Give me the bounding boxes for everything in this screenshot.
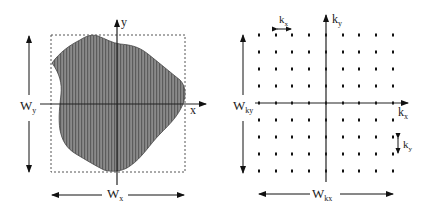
sample-point	[291, 51, 293, 54]
sample-point	[342, 34, 344, 37]
sample-point	[291, 153, 293, 156]
sample-point	[275, 85, 277, 88]
sample-point	[375, 170, 377, 173]
figure: y x Wy Wx ky kx kx ky Wky	[0, 0, 430, 211]
sample-point	[375, 68, 377, 71]
sample-point	[358, 119, 360, 122]
sample-point	[275, 136, 277, 139]
sample-point	[275, 68, 277, 71]
sample-point	[392, 51, 394, 54]
wy-label: Wy	[20, 98, 36, 115]
sample-point	[358, 68, 360, 71]
sample-point	[392, 85, 394, 88]
sample-point	[258, 170, 260, 173]
sample-point	[358, 51, 360, 54]
delta-kx-label: kx	[279, 13, 289, 28]
sample-point	[258, 119, 260, 122]
sample-point	[258, 136, 260, 139]
sample-point	[342, 51, 344, 54]
sample-point	[291, 136, 293, 139]
sample-point	[358, 170, 360, 173]
sample-point	[308, 136, 310, 139]
ky-axis-label: ky	[332, 12, 342, 28]
sample-point	[392, 34, 394, 37]
sample-point	[342, 119, 344, 122]
sample-point	[275, 119, 277, 122]
sample-point	[342, 68, 344, 71]
sample-point	[392, 68, 394, 71]
sample-point	[375, 85, 377, 88]
sample-point	[291, 34, 293, 37]
sample-point	[375, 136, 377, 139]
sample-point	[291, 85, 293, 88]
sample-point	[275, 51, 277, 54]
sample-point	[375, 119, 377, 122]
sample-point	[358, 34, 360, 37]
sample-point	[342, 85, 344, 88]
sample-point	[258, 51, 260, 54]
wx-label: Wx	[107, 186, 123, 203]
sample-point	[392, 170, 394, 173]
sample-point	[358, 136, 360, 139]
sample-point	[358, 153, 360, 156]
sample-point	[291, 119, 293, 122]
sample-point	[342, 136, 344, 139]
sample-point	[375, 153, 377, 156]
sample-point	[258, 34, 260, 37]
wky-label: Wky	[233, 98, 253, 115]
sample-point	[392, 136, 394, 139]
kx-axis-label: kx	[398, 105, 408, 121]
sample-point	[291, 68, 293, 71]
sample-point	[392, 119, 394, 122]
sample-point	[258, 85, 260, 88]
sample-point	[392, 153, 394, 156]
delta-ky-label: ky	[403, 138, 413, 153]
sample-point	[308, 153, 310, 156]
y-axis-label: y	[121, 15, 127, 29]
sample-point	[375, 34, 377, 37]
object-shape	[52, 35, 185, 171]
right-panel: ky kx kx ky Wky Wkx	[233, 12, 413, 203]
sample-point	[342, 153, 344, 156]
sample-point	[308, 51, 310, 54]
sample-point	[275, 153, 277, 156]
left-panel: y x Wy Wx	[20, 15, 206, 203]
sample-point	[258, 153, 260, 156]
sample-point	[342, 170, 344, 173]
sample-point	[275, 34, 277, 37]
x-axis-label: x	[190, 103, 196, 117]
sample-point	[358, 85, 360, 88]
sample-point	[275, 170, 277, 173]
sample-point	[308, 119, 310, 122]
sample-point	[258, 68, 260, 71]
sample-point	[291, 170, 293, 173]
sample-point	[308, 68, 310, 71]
sample-point	[375, 51, 377, 54]
sample-point	[308, 34, 310, 37]
sample-point	[308, 170, 310, 173]
sample-point	[308, 85, 310, 88]
wkx-label: Wkx	[312, 186, 332, 203]
